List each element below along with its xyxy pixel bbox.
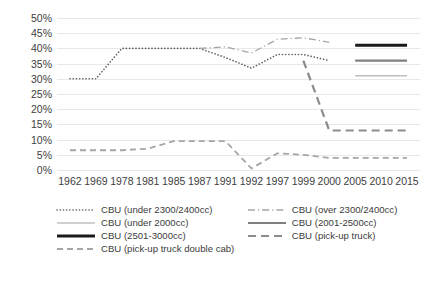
legend-swatch-dash-dot-icon	[247, 205, 287, 215]
y-axis-tick-label: 50%	[31, 13, 52, 24]
y-axis-tick-label: 20%	[31, 104, 52, 115]
series-line	[303, 61, 407, 131]
legend-label: CBU (2001-2500cc)	[292, 218, 377, 228]
legend-item[interactable]: CBU (pick-up truck)	[247, 231, 428, 241]
x-axis-tick-label: 1992	[240, 176, 263, 187]
series-line	[70, 48, 329, 78]
legend-row: CBU (pick-up truck double cab)	[38, 244, 428, 254]
legend-label: CBU (pick-up truck double cab)	[101, 244, 234, 254]
x-axis-tick-label: 1985	[162, 176, 185, 187]
legend-swatch-dotted-icon	[56, 205, 96, 215]
legend-label: CBU (2501-3000cc)	[101, 231, 186, 241]
legend-label: CBU (over 2300/2400cc)	[292, 205, 398, 215]
y-axis-tick-label: 40%	[31, 43, 52, 54]
legend-row: CBU (2501-3000cc)CBU (pick-up truck)	[38, 231, 428, 241]
legend-label: CBU (pick-up truck)	[292, 231, 376, 241]
legend-label: CBU (under 2300/2400cc)	[101, 205, 212, 215]
legend-item[interactable]: CBU (2501-3000cc)	[38, 231, 247, 241]
x-axis-tick-label: 1962	[58, 176, 81, 187]
x-axis-tick-label: 1991	[214, 176, 237, 187]
line-chart: 50%45%40%35%30%25%20%15%10%5%0% 19621969…	[0, 0, 446, 292]
x-axis-tick-label: 1981	[136, 176, 159, 187]
x-axis-tick-label: 2005	[343, 176, 366, 187]
legend-item[interactable]: CBU (pick-up truck double cab)	[38, 244, 256, 254]
legend-swatch-dashed-light-icon	[56, 244, 96, 254]
legend-row: CBU (under 2000cc)CBU (2001-2500cc)	[38, 218, 428, 228]
y-axis-tick-label: 35%	[31, 58, 52, 69]
y-axis-tick-label: 45%	[31, 28, 52, 39]
legend-item[interactable]: CBU (2001-2500cc)	[247, 218, 428, 228]
legend-swatch-solid-thick-icon	[56, 231, 96, 241]
legend-label: CBU (under 2000cc)	[101, 218, 188, 228]
y-axis-tick-label: 0%	[37, 165, 52, 176]
series-line	[200, 38, 330, 53]
x-axis-tick-label: 2015	[395, 176, 418, 187]
x-axis-tick-label: 2010	[369, 176, 392, 187]
x-axis-tick-label: 1987	[188, 176, 211, 187]
series-line	[70, 141, 407, 168]
plot-area	[57, 18, 420, 170]
y-axis-tick-label: 5%	[37, 150, 52, 161]
legend-swatch-solid-thin-icon	[56, 218, 96, 228]
x-axis-tick-label: 2000	[318, 176, 341, 187]
y-axis-tick-label: 10%	[31, 134, 52, 145]
series-layer	[57, 18, 420, 170]
legend-row: CBU (under 2300/2400cc)CBU (over 2300/24…	[38, 205, 428, 215]
legend-swatch-solid-medium-icon	[247, 218, 287, 228]
legend-swatch-dashed-dark-icon	[247, 231, 287, 241]
x-axis-tick-label: 1997	[266, 176, 289, 187]
x-axis-tick-label: 1978	[110, 176, 133, 187]
legend-item[interactable]: CBU (under 2300/2400cc)	[38, 205, 247, 215]
x-axis-tick-label: 1969	[84, 176, 107, 187]
y-axis: 50%45%40%35%30%25%20%15%10%5%0%	[0, 18, 52, 170]
x-axis: 1962196919781981198519871991199219971999…	[57, 176, 420, 192]
y-axis-tick-label: 15%	[31, 119, 52, 130]
legend-item[interactable]: CBU (under 2000cc)	[38, 218, 247, 228]
y-axis-tick-label: 25%	[31, 89, 52, 100]
y-axis-tick-label: 30%	[31, 74, 52, 85]
legend-item[interactable]: CBU (over 2300/2400cc)	[247, 205, 428, 215]
x-axis-tick-label: 1999	[292, 176, 315, 187]
gridline	[57, 170, 420, 171]
chart-legend: CBU (under 2300/2400cc)CBU (over 2300/24…	[38, 205, 428, 257]
